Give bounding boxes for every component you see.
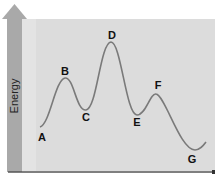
x-axis-end-mark — [212, 170, 215, 174]
point-label-b: B — [61, 65, 69, 77]
plot-background — [22, 19, 215, 171]
energy-diagram: Energy A B C D E F G — [0, 0, 215, 176]
y-axis-label: Energy — [8, 78, 20, 113]
point-label-d: D — [108, 29, 116, 41]
point-label-c: C — [82, 111, 90, 123]
point-label-e: E — [133, 116, 140, 128]
point-label-f: F — [155, 79, 162, 91]
plot-shade — [22, 19, 36, 171]
point-label-g: G — [188, 153, 197, 165]
point-label-a: A — [38, 131, 46, 143]
